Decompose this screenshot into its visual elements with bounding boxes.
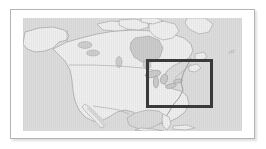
highlight-region-box — [146, 59, 213, 108]
water-great-slave-lake — [87, 50, 100, 56]
water-great-bear-lake — [78, 42, 92, 49]
locator-map — [23, 18, 242, 131]
figure-panel — [10, 9, 255, 139]
